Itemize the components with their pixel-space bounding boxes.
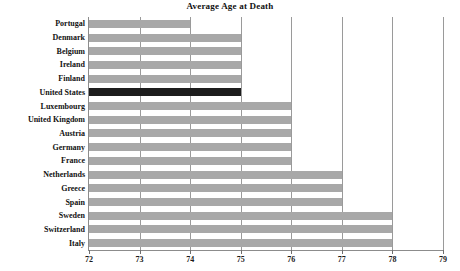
category-label-denmark: Denmark [0,33,85,42]
bar-row-spain [89,195,443,209]
chart-title: Average Age at Death [0,1,460,11]
bar-row-united-kingdom [89,113,443,127]
tick-mark-75 [241,250,242,254]
bar-chart: Average Age at Death 7273747576777879 Po… [0,0,460,271]
category-label-sweden: Sweden [0,211,85,220]
x-tick-label: 79 [428,255,458,264]
bar-row-germany [89,140,443,154]
category-label-luxembourg: Luxembourg [0,102,85,111]
bar-row-ireland [89,58,443,72]
bar-row-greece [89,181,443,195]
bar-row-switzerland [89,223,443,237]
category-label-united-kingdom: United Kingdom [0,115,85,124]
bar-portugal [89,20,190,28]
bar-row-united-states [89,86,443,100]
tick-mark-73 [140,250,141,254]
tick-mark-78 [392,250,393,254]
category-label-france: France [0,156,85,165]
bar-belgium [89,47,241,55]
bar-row-netherlands [89,168,443,182]
gridline-79 [443,17,444,250]
category-label-belgium: Belgium [0,47,85,56]
bar-switzerland [89,225,392,233]
bar-row-portugal [89,17,443,31]
bar-austria [89,129,291,137]
bar-italy [89,239,392,247]
category-label-ireland: Ireland [0,60,85,69]
category-label-switzerland: Switzerland [0,225,85,234]
category-label-portugal: Portugal [0,19,85,28]
bar-france [89,157,291,165]
tick-mark-72 [89,250,90,254]
bar-denmark [89,34,241,42]
x-tick-label: 72 [74,255,104,264]
category-label-spain: Spain [0,198,85,207]
x-tick-label: 74 [175,255,205,264]
category-label-greece: Greece [0,184,85,193]
bar-finland [89,75,241,83]
bar-sweden [89,212,392,220]
bar-row-sweden [89,209,443,223]
tick-mark-77 [342,250,343,254]
category-label-italy: Italy [0,239,85,248]
x-axis-line [88,250,444,251]
bar-row-france [89,154,443,168]
plot-area [89,17,443,250]
category-label-austria: Austria [0,129,85,138]
tick-mark-76 [291,250,292,254]
category-label-united-states: United States [0,88,85,97]
bar-row-belgium [89,44,443,58]
bar-greece [89,184,342,192]
category-label-germany: Germany [0,143,85,152]
category-label-finland: Finland [0,74,85,83]
bar-spain [89,198,342,206]
bar-ireland [89,61,241,69]
bar-row-italy [89,236,443,250]
bar-luxembourg [89,102,291,110]
bar-row-finland [89,72,443,86]
x-tick-label: 73 [125,255,155,264]
category-label-netherlands: Netherlands [0,170,85,179]
bar-germany [89,143,291,151]
x-tick-label: 75 [226,255,256,264]
bar-united-kingdom [89,116,291,124]
bar-united-states [89,88,241,96]
x-tick-label: 76 [276,255,306,264]
bar-row-austria [89,127,443,141]
x-tick-label: 78 [377,255,407,264]
bar-netherlands [89,171,342,179]
tick-mark-74 [190,250,191,254]
bar-row-denmark [89,31,443,45]
bar-row-luxembourg [89,99,443,113]
tick-mark-79 [443,250,444,254]
x-tick-label: 77 [327,255,357,264]
